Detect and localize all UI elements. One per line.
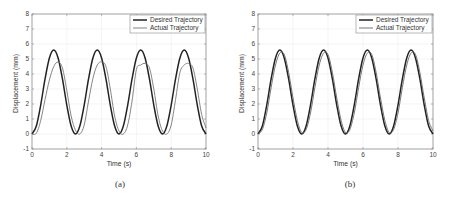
svg-text:6: 6	[251, 40, 255, 47]
svg-text:5: 5	[251, 55, 255, 62]
svg-text:-1: -1	[23, 145, 29, 152]
y-axis-label: Displacement (mm)	[238, 54, 246, 113]
legend-label-actual: Actual Trajectory	[376, 24, 425, 32]
x-axis-label: Time (s)	[333, 160, 358, 168]
plot-frame	[32, 14, 206, 149]
svg-text:-1: -1	[249, 145, 255, 152]
figure: 0246810-1012345678 Desired Trajectory Ac…	[0, 0, 452, 200]
svg-text:4: 4	[25, 70, 29, 77]
x-axis-label: Time (s)	[107, 160, 132, 168]
svg-text:7: 7	[25, 25, 29, 32]
svg-text:8: 8	[169, 151, 173, 158]
svg-text:10: 10	[429, 151, 437, 158]
svg-text:6: 6	[25, 40, 29, 47]
svg-text:8: 8	[396, 151, 400, 158]
grid-lines	[32, 14, 206, 149]
figure-canvas: 0246810-1012345678 Desired Trajectory Ac…	[0, 0, 452, 200]
svg-text:7: 7	[251, 25, 255, 32]
data-series	[32, 50, 206, 134]
svg-text:2: 2	[65, 151, 69, 158]
svg-text:0: 0	[30, 151, 34, 158]
svg-text:0: 0	[25, 130, 29, 137]
data-series	[258, 50, 433, 134]
chart-panel-a: 0246810-1012345678 Desired Trajectory Ac…	[12, 10, 210, 189]
svg-text:2: 2	[251, 100, 255, 107]
panel-caption: (a)	[115, 179, 125, 189]
svg-text:1: 1	[25, 115, 29, 122]
grid-lines	[258, 14, 433, 149]
legend-label-desired: Desired Trajectory	[376, 16, 429, 24]
svg-text:0: 0	[251, 130, 255, 137]
svg-text:2: 2	[291, 151, 295, 158]
legend: Desired Trajectory Actual Trajectory	[356, 15, 432, 33]
chart-panel-b: 0246810-1012345678 Desired Trajectory Ac…	[238, 10, 437, 189]
svg-text:4: 4	[100, 151, 104, 158]
svg-text:5: 5	[25, 55, 29, 62]
legend-label-actual: Actual Trajectory	[150, 24, 199, 32]
svg-text:3: 3	[25, 85, 29, 92]
plot-frame	[258, 14, 433, 149]
svg-text:1: 1	[251, 115, 255, 122]
svg-text:8: 8	[251, 10, 255, 17]
legend: Desired Trajectory Actual Trajectory	[130, 15, 205, 33]
svg-text:8: 8	[25, 10, 29, 17]
svg-text:6: 6	[135, 151, 139, 158]
svg-text:2: 2	[25, 100, 29, 107]
svg-text:10: 10	[202, 151, 210, 158]
svg-text:4: 4	[326, 151, 330, 158]
svg-text:4: 4	[251, 70, 255, 77]
legend-label-desired: Desired Trajectory	[150, 16, 203, 24]
panel-caption: (b)	[345, 179, 356, 189]
svg-text:3: 3	[251, 85, 255, 92]
y-axis-label: Displacement (mm)	[12, 54, 20, 113]
svg-text:6: 6	[361, 151, 365, 158]
svg-text:0: 0	[256, 151, 260, 158]
